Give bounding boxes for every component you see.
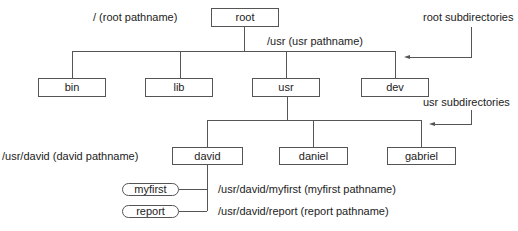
connector-dev bbox=[395, 51, 396, 78]
annotation-line-usr-sub bbox=[471, 110, 472, 124]
cropped-caption bbox=[0, 0, 200, 2]
node-gabriel: gabriel bbox=[387, 147, 456, 165]
arrow-icon bbox=[429, 122, 435, 126]
file-myfirst: myfirst bbox=[122, 183, 179, 196]
annotation-line-root-sub-h bbox=[408, 57, 472, 58]
connector-root-horizontal bbox=[72, 51, 396, 52]
file-report: report bbox=[122, 205, 179, 218]
node-dev: dev bbox=[361, 78, 429, 97]
label-david-pathname: /usr/david (david pathname) bbox=[2, 150, 138, 162]
label-root-subdirectories: root subdirectories bbox=[423, 11, 514, 23]
arrow-icon bbox=[404, 55, 410, 59]
node-bin: bin bbox=[38, 78, 106, 97]
node-david: david bbox=[172, 147, 243, 165]
connector-daniel bbox=[313, 120, 314, 147]
node-lib: lib bbox=[145, 78, 213, 97]
connector-bin bbox=[72, 51, 73, 78]
connector-root-down bbox=[244, 27, 245, 51]
label-usr-pathname: /usr (usr pathname) bbox=[267, 35, 363, 47]
node-daniel: daniel bbox=[279, 147, 348, 165]
label-usr-subdirectories: usr subdirectories bbox=[423, 96, 510, 108]
connector-david-down bbox=[207, 165, 208, 211]
node-usr: usr bbox=[252, 78, 320, 97]
annotation-line-usr-sub-h bbox=[433, 124, 472, 125]
label-myfirst-pathname: /usr/david/myfirst (myfirst pathname) bbox=[218, 183, 396, 195]
connector-gabriel bbox=[421, 120, 422, 147]
connector-myfirst bbox=[179, 189, 207, 190]
connector-report bbox=[179, 211, 207, 212]
label-root-pathname: / (root pathname) bbox=[93, 11, 177, 23]
annotation-line-root-sub bbox=[471, 27, 472, 58]
connector-usr-down bbox=[287, 97, 288, 120]
label-report-pathname: /usr/david/report (report pathname) bbox=[218, 205, 389, 217]
connector-usr-horizontal bbox=[207, 120, 422, 121]
connector-usr bbox=[286, 51, 287, 78]
connector-lib bbox=[180, 51, 181, 78]
node-root: root bbox=[211, 8, 279, 27]
connector-david bbox=[207, 120, 208, 147]
